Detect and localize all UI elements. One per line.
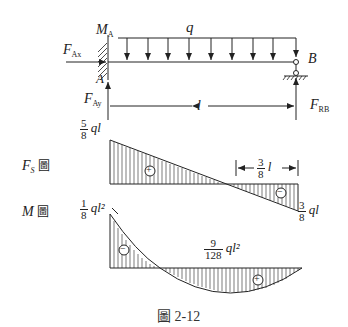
- moment-negative-sign: −: [120, 244, 126, 254]
- moment-leader: [112, 208, 118, 214]
- moment-diagram-title: M 圖: [22, 205, 49, 219]
- pin-support: [294, 71, 299, 76]
- pin-b: [294, 60, 299, 65]
- point-b-label: B: [308, 52, 317, 66]
- fax-label: FAx: [63, 43, 81, 57]
- figure-caption: 圖 2-12: [157, 305, 200, 325]
- moment-max-value: 9128 ql²: [204, 238, 240, 261]
- point-a-label: A: [96, 72, 104, 85]
- shear-positive-sign: +: [146, 165, 152, 175]
- diagram-graphics: [0, 0, 348, 327]
- shear-negative-sign: −: [277, 187, 283, 197]
- moment-ma-label: MA: [96, 23, 113, 37]
- zero-distance-label: 38 l: [257, 157, 271, 180]
- ground-hatch: [283, 76, 306, 80]
- moment-left-value: 18 ql²: [80, 198, 105, 221]
- shear-diagram-title: FS 圖: [22, 159, 50, 173]
- figure-2-12: MA q FAx A B FAy FRB l FS 圖 58 ql 38 ql …: [0, 0, 348, 327]
- load-q-label: q: [186, 20, 194, 35]
- shear-right-value: 38 ql: [298, 200, 319, 223]
- moment-positive-sign: +: [254, 274, 260, 284]
- shear-left-value: 58 ql: [80, 118, 101, 141]
- load-arrows: [127, 38, 296, 60]
- fay-label: FAy: [84, 92, 102, 106]
- frb-label: FRB: [310, 98, 329, 112]
- length-label: l: [197, 99, 201, 113]
